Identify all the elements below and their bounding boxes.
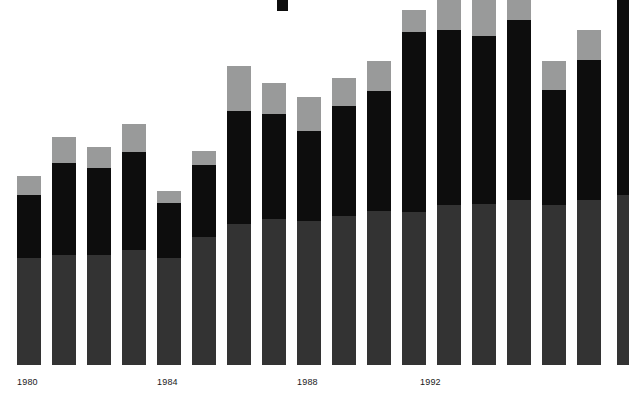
bar-segment-middle: [507, 20, 531, 200]
bar: [87, 147, 111, 365]
bar-segment-top: [332, 78, 356, 106]
bar: [157, 191, 181, 365]
stacked-bar-chart: 1980198419881992: [0, 0, 629, 395]
top-edge-marker: [277, 0, 288, 11]
x-axis-tick-label: 1984: [157, 377, 178, 387]
bar-segment-top: [122, 124, 146, 152]
bar-segment-top: [52, 137, 76, 163]
bar-segment-bottom: [367, 211, 391, 365]
bar-segment-middle: [437, 30, 461, 205]
bar-segment-middle: [192, 165, 216, 237]
bar: [507, 0, 531, 365]
bar-segment-bottom: [87, 255, 111, 365]
bar: [402, 10, 426, 365]
bar: [52, 137, 76, 365]
bar: [542, 61, 566, 365]
bar-segment-bottom: [192, 237, 216, 365]
x-axis-tick-labels: 1980198419881992: [0, 365, 629, 395]
bar-segment-bottom: [332, 216, 356, 365]
bar: [617, 0, 629, 365]
bar-segment-bottom: [617, 195, 629, 365]
bar-segment-top: [542, 61, 566, 90]
bar-segment-middle: [367, 91, 391, 211]
bar-segment-top: [577, 30, 601, 60]
bar-segment-middle: [87, 168, 111, 255]
bar-segment-bottom: [122, 250, 146, 365]
bar: [262, 83, 286, 365]
bar-segment-bottom: [227, 224, 251, 365]
bar-segment-middle: [227, 111, 251, 224]
x-axis-tick-label: 1992: [420, 377, 441, 387]
bar-segment-middle: [577, 60, 601, 200]
bar: [297, 97, 321, 365]
bar-segment-bottom: [472, 204, 496, 365]
bar-segment-bottom: [542, 205, 566, 365]
bar: [577, 30, 601, 365]
bar-segment-bottom: [507, 200, 531, 365]
bar-segment-top: [367, 61, 391, 91]
bar-segment-top: [17, 176, 41, 195]
bar-segment-top: [192, 151, 216, 165]
x-axis-tick-label: 1980: [17, 377, 38, 387]
bar-segment-top: [472, 0, 496, 36]
bar: [192, 151, 216, 365]
bar-segment-bottom: [17, 258, 41, 365]
bar-segment-top: [402, 10, 426, 32]
bar: [367, 61, 391, 365]
bar-segment-top: [262, 83, 286, 114]
bar-segment-top: [227, 66, 251, 111]
bar: [17, 176, 41, 365]
bar-segment-bottom: [437, 205, 461, 365]
bar-segment-bottom: [297, 221, 321, 365]
bar-segment-middle: [472, 36, 496, 204]
bar-segment-bottom: [262, 219, 286, 365]
bar: [122, 124, 146, 365]
bar-segment-middle: [332, 106, 356, 216]
bar-segment-middle: [122, 152, 146, 250]
bar-segment-middle: [297, 131, 321, 221]
bar-segment-bottom: [577, 200, 601, 365]
bar-segment-middle: [17, 195, 41, 258]
x-axis-tick-label: 1988: [297, 377, 318, 387]
bar: [227, 66, 251, 365]
bar-segment-bottom: [157, 258, 181, 365]
plot-area: [0, 0, 629, 365]
bar-segment-top: [297, 97, 321, 131]
bar: [472, 0, 496, 365]
bar-segment-middle: [542, 90, 566, 205]
bar-segment-middle: [157, 203, 181, 258]
bar-segment-top: [157, 191, 181, 203]
bar-segment-middle: [52, 163, 76, 255]
bar: [332, 78, 356, 365]
bar-segment-top: [87, 147, 111, 168]
bar-segment-middle: [262, 114, 286, 219]
bar-segment-middle: [402, 32, 426, 212]
bar-segment-middle: [617, 0, 629, 195]
bar-segment-bottom: [52, 255, 76, 365]
bar-segment-bottom: [402, 212, 426, 365]
bar-segment-top: [507, 0, 531, 20]
bar: [437, 0, 461, 365]
bar-segment-top: [437, 0, 461, 30]
